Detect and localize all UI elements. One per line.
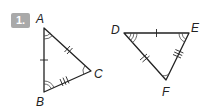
vertex-label-d: D	[111, 23, 120, 37]
tick-marks	[40, 29, 183, 86]
triangle-abc	[44, 28, 91, 92]
vertex-label-c: C	[94, 67, 103, 81]
angle-marks	[44, 33, 186, 89]
vertex-label-f: F	[162, 85, 170, 99]
triangle-def	[124, 33, 189, 80]
congruent-triangles-diagram: A B C D E F	[0, 0, 202, 110]
vertex-label-a: A	[35, 12, 44, 26]
vertex-label-b: B	[36, 95, 44, 109]
vertex-label-e: E	[191, 21, 200, 35]
